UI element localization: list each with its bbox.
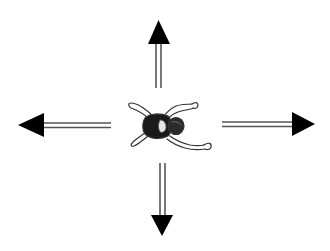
arrow-up-icon <box>148 20 170 88</box>
arrow-down-icon <box>151 163 173 236</box>
arrow-right-icon <box>222 112 315 136</box>
direction-diagram <box>0 0 330 251</box>
swimmer-figure-icon <box>129 103 211 150</box>
arrow-left-icon <box>18 113 111 137</box>
